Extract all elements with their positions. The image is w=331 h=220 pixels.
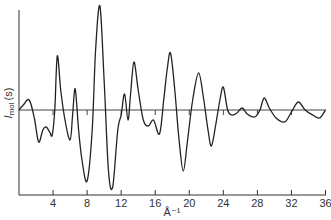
x-tick-label: 16 [149,197,161,209]
x-tick-label: 12 [115,197,127,209]
baseline-ticks [53,110,291,115]
x-tick-label: 32 [285,197,297,209]
x-axis-label: Å⁻¹ [164,206,181,218]
y-label-sub: mol [7,102,16,115]
axes: 4812162024283236 [19,10,331,209]
y-label-arg: (s) [2,88,14,101]
x-tick-label: 8 [84,197,90,209]
x-tick-label: 24 [217,197,229,209]
chart: 4812162024283236 Å⁻¹ Imol(s) [0,0,331,220]
data-curve [19,5,326,189]
svg-text:Imol(s): Imol(s) [2,88,16,119]
x-tick-label: 4 [50,197,56,209]
x-ticks: 4812162024283236 [50,190,331,209]
y-axis-label: Imol(s) [2,88,16,119]
x-tick-label: 20 [183,197,195,209]
x-tick-label: 28 [251,197,263,209]
x-tick-label: 36 [319,197,331,209]
